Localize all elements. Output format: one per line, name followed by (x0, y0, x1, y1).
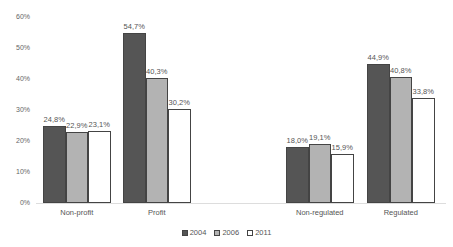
category-label: Non-regulated (275, 208, 365, 217)
category-label: Profit (112, 208, 202, 217)
value-label: 40,8% (386, 66, 416, 75)
legend-swatch-icon (182, 230, 188, 236)
x-axis-line (36, 203, 446, 204)
value-label: 54,7% (119, 22, 149, 31)
legend-item-2004: 2004 (182, 228, 207, 237)
legend-swatch-icon (214, 230, 220, 236)
bar-2004-profit (123, 33, 146, 203)
legend: 2004 2006 2011 (0, 228, 453, 237)
value-label: 33,8% (408, 87, 438, 96)
category-label: Non-profit (32, 208, 122, 217)
y-tick-label: 20% (0, 137, 30, 144)
bar-2011-non-regulated (331, 154, 354, 203)
bar-2006-non-profit (66, 132, 89, 203)
bar-2011-profit (168, 109, 191, 203)
y-tick-label: 10% (0, 168, 30, 175)
y-tick-label: 30% (0, 106, 30, 113)
y-tick-label: 0% (0, 199, 30, 206)
value-label: 30,2% (164, 98, 194, 107)
bar-2004-non-regulated (286, 147, 309, 203)
value-label: 15,9% (327, 143, 357, 152)
y-tick-label: 60% (0, 13, 30, 20)
category-label: Regulated (356, 208, 446, 217)
bar-2011-non-profit (88, 131, 111, 203)
bar-2004-non-profit (43, 126, 66, 203)
value-label: 44,9% (363, 53, 393, 62)
value-label: 40,3% (142, 67, 172, 76)
bar-2006-non-regulated (309, 144, 332, 203)
y-tick-label: 50% (0, 44, 30, 51)
bar-2004-regulated (367, 64, 390, 203)
bar-2011-regulated (412, 98, 435, 203)
value-label: 19,1% (305, 133, 335, 142)
y-tick-label: 40% (0, 75, 30, 82)
legend-swatch-icon (247, 230, 253, 236)
legend-item-2006: 2006 (214, 228, 239, 237)
legend-item-2011: 2011 (247, 228, 271, 237)
bar-2006-profit (146, 78, 169, 203)
value-label: 23,1% (84, 120, 114, 129)
